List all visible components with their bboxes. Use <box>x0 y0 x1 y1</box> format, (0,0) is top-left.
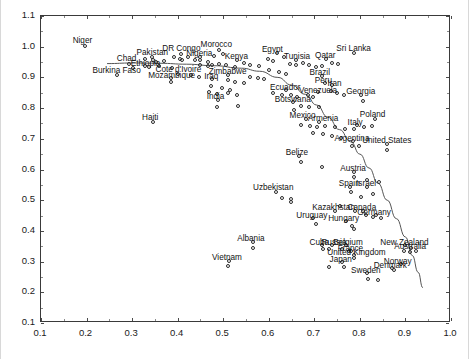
data-point[interactable] <box>317 105 321 109</box>
data-point[interactable] <box>333 125 337 129</box>
data-point[interactable] <box>242 81 246 85</box>
y-axis-tick <box>41 139 44 140</box>
x-axis-tick <box>178 16 179 19</box>
data-point[interactable] <box>299 104 303 108</box>
data-point[interactable] <box>294 63 298 67</box>
data-point[interactable] <box>288 62 292 66</box>
data-point[interactable] <box>242 61 246 65</box>
y-axis-tick <box>41 200 44 201</box>
data-point[interactable] <box>299 123 303 127</box>
data-point[interactable] <box>233 80 237 84</box>
y-axis-minor-tick <box>447 154 449 155</box>
data-point-label: Vietnam <box>212 253 242 262</box>
data-point[interactable] <box>172 55 176 59</box>
data-point[interactable] <box>342 265 346 269</box>
x-axis-tick <box>132 318 133 321</box>
data-point-label: Belize <box>286 148 308 157</box>
y-axis-tick <box>446 262 449 263</box>
data-point[interactable] <box>226 78 230 82</box>
data-point[interactable] <box>320 64 324 68</box>
data-point[interactable] <box>315 125 319 129</box>
data-point[interactable] <box>352 127 356 131</box>
data-point[interactable] <box>217 62 221 66</box>
data-point[interactable] <box>343 127 347 131</box>
data-point[interactable] <box>220 86 224 90</box>
data-point[interactable] <box>323 124 327 128</box>
x-axis-tick-label: 0.3 <box>117 327 145 338</box>
y-axis-tick <box>41 47 44 48</box>
data-point[interactable] <box>215 105 219 109</box>
y-axis-tick-label: 0.2 <box>4 285 35 296</box>
data-point[interactable] <box>197 75 201 79</box>
data-point[interactable] <box>308 124 312 128</box>
data-point[interactable] <box>330 61 334 65</box>
data-point[interactable] <box>256 76 260 80</box>
data-point-label: Georgia <box>346 87 375 96</box>
data-point[interactable] <box>257 64 261 68</box>
data-point-label: Mozambique <box>148 71 195 80</box>
y-axis-minor-tick <box>41 93 43 94</box>
data-point-label: Armenia <box>308 114 339 123</box>
data-point-label: Australia <box>394 242 426 251</box>
data-point[interactable] <box>262 77 266 81</box>
page-frame-left-border <box>0 0 1 359</box>
data-point[interactable] <box>266 57 270 61</box>
data-point[interactable] <box>236 104 240 108</box>
x-axis-minor-tick <box>64 319 65 321</box>
data-point[interactable] <box>377 180 381 184</box>
x-axis-tick <box>451 318 452 321</box>
y-axis-tick-label: 0.3 <box>4 255 35 266</box>
data-point[interactable] <box>366 277 370 281</box>
data-point[interactable] <box>248 63 252 67</box>
data-point[interactable] <box>235 93 239 97</box>
data-point[interactable] <box>198 58 202 62</box>
data-point[interactable] <box>321 247 325 251</box>
data-point[interactable] <box>284 72 288 76</box>
data-point[interactable] <box>226 91 230 95</box>
data-point[interactable] <box>311 131 315 135</box>
data-point[interactable] <box>180 58 184 62</box>
data-point[interactable] <box>162 59 166 63</box>
y-axis-minor-tick <box>41 277 43 278</box>
data-point[interactable] <box>226 264 230 268</box>
y-axis-tick <box>41 170 44 171</box>
data-point[interactable] <box>289 200 293 204</box>
data-point[interactable] <box>385 148 389 152</box>
data-point[interactable] <box>299 160 303 164</box>
data-point[interactable] <box>251 246 255 250</box>
data-point[interactable] <box>359 195 363 199</box>
data-point[interactable] <box>248 75 252 79</box>
data-point[interactable] <box>320 165 324 169</box>
data-point[interactable] <box>371 192 375 196</box>
data-point[interactable] <box>370 124 374 128</box>
data-point-label: Albania <box>237 234 264 243</box>
data-point-label: Iraq <box>204 72 218 81</box>
data-point[interactable] <box>376 278 380 282</box>
data-point[interactable] <box>357 144 361 148</box>
data-point[interactable] <box>280 196 284 200</box>
y-axis-tick-label: 0.8 <box>4 101 35 112</box>
x-axis-tick <box>41 318 42 321</box>
data-point[interactable] <box>321 132 325 136</box>
data-point[interactable] <box>267 68 271 72</box>
data-point[interactable] <box>361 99 365 103</box>
data-point[interactable] <box>336 62 340 66</box>
data-point[interactable] <box>307 63 311 67</box>
data-point[interactable] <box>169 80 173 84</box>
data-point[interactable] <box>307 105 311 109</box>
data-point[interactable] <box>350 144 354 148</box>
x-axis-tick <box>314 16 315 19</box>
y-axis-tick <box>41 108 44 109</box>
y-axis-tick-label: 0.7 <box>4 132 35 143</box>
y-axis-minor-tick <box>447 31 449 32</box>
data-point[interactable] <box>314 222 318 226</box>
data-point[interactable] <box>311 95 315 99</box>
data-point[interactable] <box>277 70 281 74</box>
data-point[interactable] <box>352 227 356 231</box>
data-point[interactable] <box>212 54 216 58</box>
y-axis-tick <box>41 323 44 324</box>
data-point[interactable] <box>327 265 331 269</box>
data-point[interactable] <box>209 84 213 88</box>
data-point[interactable] <box>349 190 353 194</box>
data-point[interactable] <box>271 59 275 63</box>
